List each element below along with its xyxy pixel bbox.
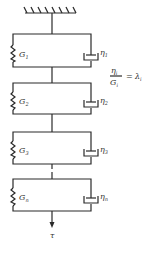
spring-label-2: G2 bbox=[19, 97, 29, 107]
spring-icon bbox=[11, 45, 15, 62]
dashpot-icon bbox=[84, 194, 98, 203]
spring-icon bbox=[11, 141, 15, 159]
svg-text:λi: λi bbox=[134, 72, 142, 82]
dashpot-label-1: η1 bbox=[100, 48, 108, 58]
kelvin-voigt-diagram: G1 η1 G2 η2 G3 η3 bbox=[0, 0, 153, 254]
svg-text:Gi: Gi bbox=[110, 78, 118, 88]
kelvin-element-3: G3 η3 bbox=[11, 132, 108, 164]
spring-label-n: Gn bbox=[19, 193, 29, 203]
spring-label-3: G3 bbox=[19, 146, 29, 156]
dashpot-icon bbox=[84, 98, 98, 107]
kelvin-element-n: Gn ηn bbox=[11, 179, 108, 211]
svg-text:ηi: ηi bbox=[111, 66, 118, 76]
kelvin-element-2: G2 η2 bbox=[11, 83, 108, 114]
dashpot-icon bbox=[84, 147, 98, 156]
spring-icon bbox=[11, 92, 15, 110]
fixed-support bbox=[24, 7, 76, 34]
dashpot-label-3: η3 bbox=[100, 145, 108, 155]
kelvin-element-1: G1 η1 bbox=[11, 34, 108, 67]
load-arrow-icon bbox=[50, 211, 55, 228]
dashpot-label-2: η2 bbox=[100, 96, 108, 106]
load-label: τ bbox=[50, 231, 55, 240]
dashpot-label-n: ηn bbox=[100, 192, 108, 202]
spring-label-1: G1 bbox=[19, 50, 29, 60]
relaxation-equation: ηi Gi = λi bbox=[110, 66, 142, 88]
spring-icon bbox=[11, 188, 15, 206]
svg-text:=: = bbox=[126, 72, 133, 81]
dashpot-icon bbox=[84, 50, 98, 60]
